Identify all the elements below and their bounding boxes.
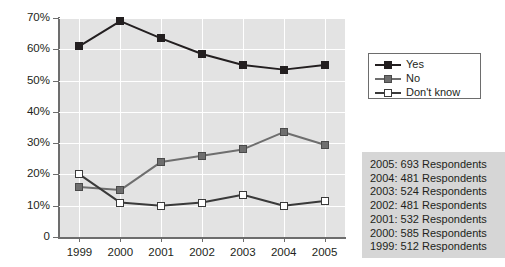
y-axis-tick-label: 40%	[0, 106, 50, 117]
y-axis-tick-label: 0	[0, 231, 50, 242]
gridline-vertical	[79, 18, 80, 237]
data-point-marker	[116, 199, 124, 207]
y-axis-tick-label: 50%	[0, 75, 50, 86]
respondents-line: 2002: 481 Respondents	[370, 199, 505, 213]
gridline-vertical	[243, 18, 244, 237]
data-point-marker	[280, 128, 288, 136]
x-axis-tick-label: 2005	[300, 246, 350, 258]
y-axis-tick	[53, 206, 58, 207]
y-axis-tick-label: 10%	[0, 200, 50, 211]
respondents-line: 1999: 512 Respondents	[370, 240, 505, 254]
respondents-line: 2001: 532 Respondents	[370, 213, 505, 227]
respondents-line: 2003: 524 Respondents	[370, 185, 505, 199]
x-axis-tick	[79, 238, 80, 242]
data-point-marker	[239, 61, 247, 69]
data-point-marker	[198, 199, 206, 207]
data-point-marker	[280, 66, 288, 74]
data-point-marker	[75, 170, 83, 178]
respondents-line: 2000: 585 Respondents	[370, 227, 505, 241]
y-axis-tick	[53, 237, 58, 238]
legend-item-no[interactable]: No	[375, 72, 480, 85]
x-axis-tick	[243, 238, 244, 242]
x-axis-tick	[120, 238, 121, 242]
data-point-marker	[198, 152, 206, 160]
data-point-marker	[321, 141, 329, 149]
y-axis-tick	[53, 81, 58, 82]
chart-legend: YesNoDon't know	[368, 53, 481, 99]
y-axis-tick	[53, 18, 58, 19]
y-axis-tick	[53, 143, 58, 144]
respondents-line: 2005: 693 Respondents	[370, 158, 505, 172]
data-point-marker	[157, 34, 165, 42]
legend-marker-icon	[375, 87, 401, 98]
data-point-marker	[239, 145, 247, 153]
data-point-marker	[116, 186, 124, 194]
respondents-note-box: 2005: 693 Respondents2004: 481 Responden…	[362, 152, 505, 258]
data-point-marker	[198, 50, 206, 58]
data-point-marker	[321, 61, 329, 69]
data-point-marker	[75, 183, 83, 191]
data-point-marker	[75, 42, 83, 50]
line-chart-figure: 010%20%30%40%50%60%70% 19992000200120022…	[0, 0, 505, 267]
x-axis-tick	[202, 238, 203, 242]
data-point-marker	[280, 202, 288, 210]
x-axis-tick	[161, 238, 162, 242]
data-point-marker	[116, 17, 124, 25]
x-axis-tick	[284, 238, 285, 242]
legend-item-yes[interactable]: Yes	[375, 58, 480, 71]
data-point-marker	[157, 158, 165, 166]
data-point-marker	[157, 202, 165, 210]
data-point-marker	[239, 191, 247, 199]
legend-item-label: No	[406, 73, 420, 84]
legend-item-label: Yes	[406, 59, 424, 70]
y-axis-tick-label: 70%	[0, 12, 50, 23]
legend-item-don-t-know[interactable]: Don't know	[375, 86, 480, 99]
y-axis-tick-label: 20%	[0, 168, 50, 179]
y-axis-tick	[53, 112, 58, 113]
legend-item-label: Don't know	[406, 87, 460, 98]
x-axis-tick	[325, 238, 326, 242]
y-axis-tick-label: 30%	[0, 137, 50, 148]
data-point-marker	[321, 197, 329, 205]
respondents-line: 2004: 481 Respondents	[370, 172, 505, 186]
y-axis-tick-label: 60%	[0, 43, 50, 54]
y-axis-tick	[53, 174, 58, 175]
y-axis-tick	[53, 49, 58, 50]
legend-marker-icon	[375, 59, 401, 70]
legend-marker-icon	[375, 73, 401, 84]
